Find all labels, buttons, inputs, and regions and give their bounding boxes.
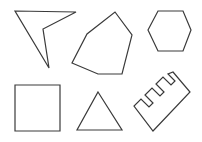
background (0, 0, 202, 142)
shapes-canvas (0, 0, 202, 142)
